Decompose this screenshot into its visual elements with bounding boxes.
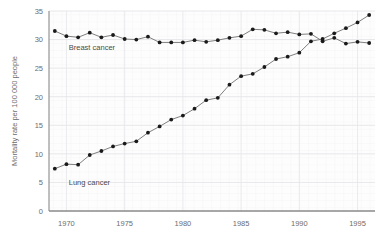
data-point — [158, 41, 162, 45]
data-point — [99, 149, 103, 153]
series-label-breast-cancer: Breast cancer — [69, 43, 116, 52]
x-tick-label-1980: 1980 — [175, 219, 192, 228]
y-tick-label-30: 30 — [35, 35, 43, 44]
data-point — [134, 139, 138, 143]
data-point — [356, 21, 360, 25]
data-point — [181, 114, 185, 118]
data-point — [344, 42, 348, 46]
data-point — [111, 145, 115, 149]
chart-container: 05101520253035 197019751980198519901995 … — [0, 0, 385, 240]
data-point — [297, 33, 301, 37]
y-tick-label-0: 0 — [39, 207, 43, 216]
mortality-line-chart: 05101520253035 197019751980198519901995 … — [0, 0, 385, 240]
data-point — [169, 118, 173, 122]
data-point — [344, 26, 348, 30]
x-tick-label-1975: 1975 — [116, 219, 133, 228]
y-tick-label-25: 25 — [35, 64, 43, 73]
data-point — [367, 13, 371, 17]
data-point — [321, 37, 325, 41]
data-point — [216, 38, 220, 42]
data-point — [146, 131, 150, 135]
data-point — [123, 142, 127, 146]
data-point — [228, 36, 232, 40]
data-point — [53, 29, 57, 33]
data-point — [88, 153, 92, 157]
data-point — [158, 125, 162, 129]
data-point — [286, 55, 290, 59]
x-tick-label-1970: 1970 — [58, 219, 75, 228]
data-point — [111, 33, 115, 37]
data-point — [76, 35, 80, 39]
data-point — [274, 57, 278, 61]
data-point — [204, 40, 208, 44]
data-point — [228, 83, 232, 87]
data-point — [99, 35, 103, 39]
data-point — [356, 40, 360, 44]
series-label-lung-cancer: Lung cancer — [69, 178, 111, 187]
data-point — [262, 65, 266, 69]
data-point — [251, 72, 255, 76]
data-point — [262, 28, 266, 32]
data-point — [204, 98, 208, 102]
data-point — [65, 34, 69, 38]
data-point — [65, 162, 69, 166]
data-point — [332, 36, 336, 40]
data-point — [367, 41, 371, 45]
data-point — [309, 39, 313, 43]
x-tick-label-1990: 1990 — [291, 219, 308, 228]
y-axis-title: Mortality rate per 100 000 people — [10, 56, 19, 166]
x-tick-label-1995: 1995 — [349, 219, 366, 228]
data-point — [88, 31, 92, 35]
data-point — [239, 74, 243, 78]
data-point — [309, 32, 313, 36]
data-point — [181, 41, 185, 45]
x-tick-label-1985: 1985 — [233, 219, 250, 228]
data-point — [134, 38, 138, 42]
y-tick-label-35: 35 — [35, 7, 43, 16]
y-tick-label-15: 15 — [35, 121, 43, 130]
data-point — [251, 27, 255, 31]
y-tick-label-20: 20 — [35, 93, 43, 102]
y-tick-label-10: 10 — [35, 150, 43, 159]
data-point — [286, 30, 290, 34]
data-point — [297, 51, 301, 55]
data-point — [53, 167, 57, 171]
data-point — [123, 37, 127, 41]
y-tick-label-5: 5 — [39, 178, 43, 187]
data-point — [146, 35, 150, 39]
data-point — [216, 96, 220, 100]
data-point — [193, 107, 197, 111]
data-point — [332, 31, 336, 35]
data-point — [169, 41, 173, 45]
data-point — [239, 34, 243, 38]
data-point — [193, 38, 197, 42]
data-point — [76, 163, 80, 167]
data-point — [274, 31, 278, 35]
